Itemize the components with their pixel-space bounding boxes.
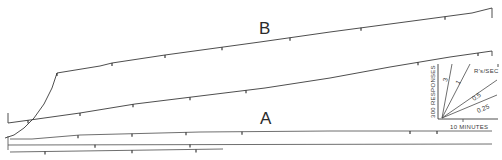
baseline-3 [10, 149, 223, 152]
cumulative-record-chart: B A R's/SEC 3 1 0.5 0.25 300 RESPONSES 1… [0, 0, 502, 160]
curve-b-label: B [259, 19, 270, 38]
key-rate-title: R's/SEC [474, 68, 499, 74]
key-y-label: 300 RESPONSES [430, 65, 436, 118]
baseline-1 [10, 131, 492, 139]
baseline-2 [8, 144, 492, 145]
key-x-label: 10 MINUTES [450, 124, 488, 130]
curve-a-label: A [260, 109, 272, 128]
curve-b-line [5, 8, 492, 138]
curve-a-line [8, 51, 492, 123]
curve-b-tick-marks [57, 17, 445, 76]
slope-key: R's/SEC 3 1 0.5 0.25 300 RESPONSES 10 MI… [430, 63, 500, 130]
baseline-records [8, 131, 492, 155]
